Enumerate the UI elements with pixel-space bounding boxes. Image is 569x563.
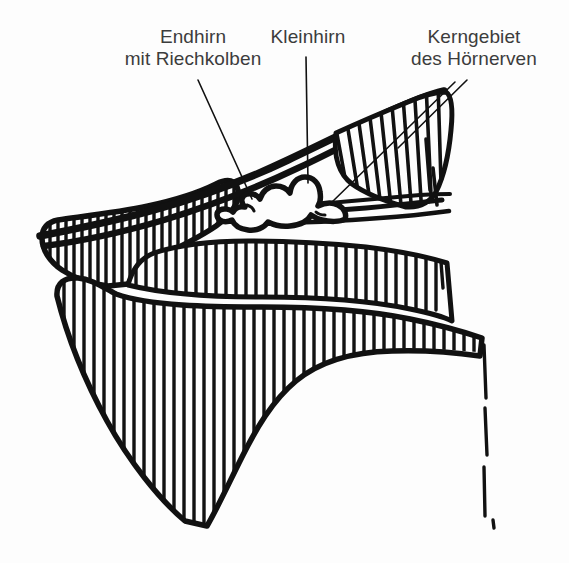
drawing-ink <box>40 57 494 542</box>
label-endhirn-mit-riechkolben: Endhirn mit Riechkolben <box>108 26 278 70</box>
anatomy-drawing <box>0 0 569 563</box>
label-kerngebiet-des-hoernerven: Kerngebiet des Hörnerven <box>398 26 550 70</box>
anatomy-figure: Endhirn mit Riechkolben Kleinhirn Kernge… <box>0 0 569 563</box>
label-kleinhirn: Kleinhirn <box>258 26 358 48</box>
